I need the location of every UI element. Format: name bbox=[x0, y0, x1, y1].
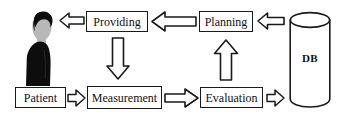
arrow-providing-to-measurement bbox=[106, 37, 130, 80]
node-patient: Patient bbox=[15, 87, 66, 108]
arrow-evaluation-to-planning bbox=[213, 39, 239, 81]
node-providing: Providing bbox=[86, 11, 148, 32]
node-measurement: Measurement bbox=[87, 86, 162, 109]
node-planning-label: Planning bbox=[205, 16, 248, 28]
node-measurement-label: Measurement bbox=[92, 92, 157, 104]
node-providing-label: Providing bbox=[93, 16, 140, 28]
node-patient-label: Patient bbox=[24, 92, 57, 104]
arrow-patient-to-measurement bbox=[67, 89, 86, 107]
diagram-canvas: Providing Planning Patient Measurement E… bbox=[0, 0, 338, 118]
arrow-planning-to-providing bbox=[151, 11, 197, 32]
node-db-label: DB bbox=[289, 52, 331, 64]
arrow-measurement-to-evaluation bbox=[164, 88, 199, 108]
arrow-evaluation-to-db bbox=[266, 89, 285, 107]
node-evaluation-label: Evaluation bbox=[206, 92, 258, 104]
node-planning: Planning bbox=[199, 11, 253, 32]
arrow-providing-to-person bbox=[59, 12, 85, 29]
arrow-db-to-planning bbox=[257, 12, 285, 30]
node-evaluation: Evaluation bbox=[200, 87, 263, 108]
